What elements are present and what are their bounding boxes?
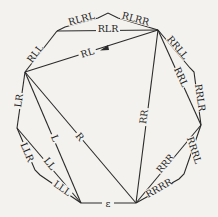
label-rlrr: RLRR [121, 10, 151, 28]
label-rrlr: RRLR [193, 83, 208, 113]
label-rrrr: RRRR [144, 175, 175, 199]
label-rr: RR [137, 108, 150, 124]
label-lr: LR [12, 92, 25, 108]
label-rlr: RLR [98, 23, 119, 34]
label-rll: RLL [25, 42, 46, 65]
label-epsilon: ε [106, 198, 111, 209]
label-rrrl: RRRL [185, 135, 204, 165]
label-rrr: RRR [154, 151, 177, 175]
graph-diagram: RLL RLRL RLRR RLR RL RRLL RRL RRLR [0, 0, 218, 217]
label-ll: LL [42, 155, 59, 172]
label-rlrl: RLRL [67, 10, 97, 28]
